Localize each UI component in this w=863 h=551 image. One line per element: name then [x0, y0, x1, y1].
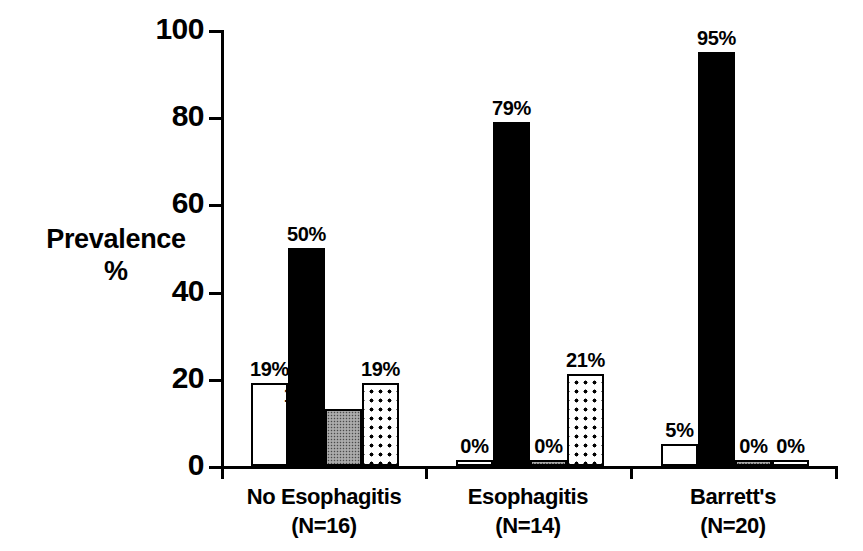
bar-value-label: 95%: [688, 27, 745, 50]
group-name: No Esophagitis: [224, 484, 424, 510]
bar-value-label: 21%: [557, 349, 614, 372]
x-tick-2: [630, 466, 633, 479]
bar-no-esophagitis-dotted: [362, 383, 399, 466]
x-tick-0: [221, 466, 224, 479]
group-count: (N=16): [224, 513, 424, 539]
bars-layer: 19%50%13%19%0%79%0%21%5%95%0%0%: [0, 0, 863, 467]
bar-barrett-s-dotted: [772, 460, 809, 466]
bar-esophagitis-stipple: [530, 460, 567, 466]
group-name: Barrett's: [633, 484, 833, 510]
bar-value-label: 13%: [282, 384, 323, 407]
bar-barrett-s-stipple: [735, 460, 772, 466]
group-label-barretts: Barrett's (N=20): [633, 484, 833, 539]
x-tick-1: [425, 466, 428, 479]
group-count: (N=20): [633, 513, 833, 539]
bar-value-label: 0%: [762, 435, 819, 458]
bar-value-label: 50%: [278, 223, 335, 246]
bar-esophagitis-solid: [493, 122, 530, 466]
bar-esophagitis-open: [456, 460, 493, 466]
group-count: (N=14): [428, 513, 628, 539]
bar-no-esophagitis-solid: [288, 248, 325, 466]
group-label-no-esophagitis: No Esophagitis (N=16): [224, 484, 424, 539]
x-tick-3: [835, 466, 838, 479]
bar-no-esophagitis-stipple: [325, 409, 362, 466]
bar-esophagitis-dotted: [567, 374, 604, 466]
prevalence-bar-chart: Prevalence % 100 80 60 40 20 0 19%50%13%…: [0, 0, 863, 551]
bar-barrett-s-open: [661, 444, 698, 466]
bar-value-label: 79%: [483, 97, 540, 120]
group-label-esophagitis: Esophagitis (N=14): [428, 484, 628, 539]
group-name: Esophagitis: [428, 484, 628, 510]
bar-value-label: 19%: [352, 358, 409, 381]
bar-barrett-s-solid: [698, 52, 735, 466]
